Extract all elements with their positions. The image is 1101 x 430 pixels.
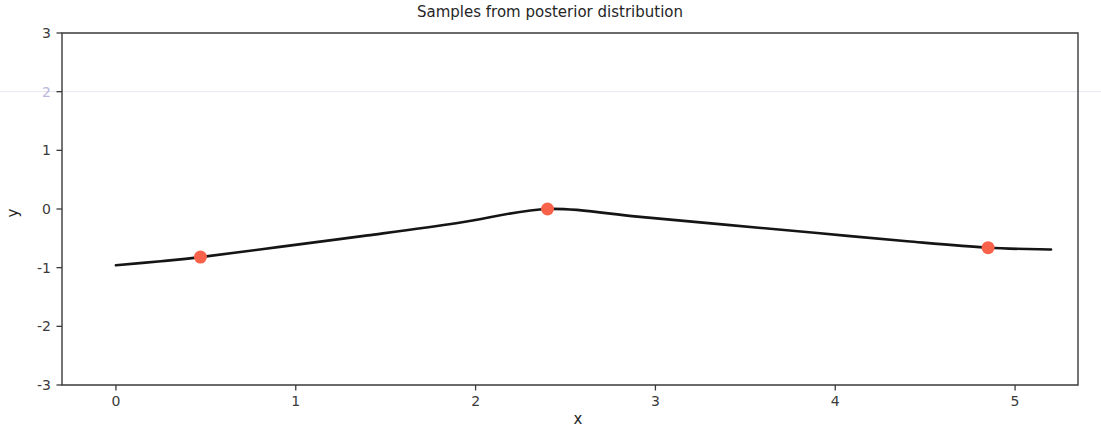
y-tick-label: 3 bbox=[42, 25, 51, 41]
figure-background bbox=[0, 0, 1101, 430]
y-tick-label: -2 bbox=[37, 318, 51, 334]
x-tick-label: 0 bbox=[111, 393, 120, 409]
observed-data-point bbox=[194, 251, 207, 264]
posterior-samples-chart: Samples from posterior distribution 0123… bbox=[0, 0, 1101, 430]
figure-container: Samples from posterior distribution 0123… bbox=[0, 0, 1101, 430]
x-tick-label: 2 bbox=[471, 393, 480, 409]
y-tick-label: 2 bbox=[42, 84, 51, 100]
y-axis-label: y bbox=[4, 208, 22, 217]
x-tick-label: 5 bbox=[1011, 393, 1020, 409]
y-tick-label: -1 bbox=[37, 260, 51, 276]
x-axis-label: x bbox=[574, 410, 583, 428]
y-tick-label: 0 bbox=[42, 201, 51, 217]
observed-data-point bbox=[982, 241, 995, 254]
x-tick-label: 4 bbox=[831, 393, 840, 409]
observed-data-point bbox=[541, 203, 554, 216]
y-tick-label: -3 bbox=[37, 377, 51, 393]
chart-title: Samples from posterior distribution bbox=[417, 3, 683, 21]
x-tick-label: 3 bbox=[651, 393, 660, 409]
y-tick-label: 1 bbox=[42, 142, 51, 158]
x-tick-label: 1 bbox=[291, 393, 300, 409]
